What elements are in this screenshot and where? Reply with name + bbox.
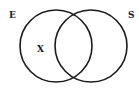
set-label-s: S (128, 11, 135, 20)
circle-e (20, 10, 92, 82)
venn-svg (0, 0, 139, 88)
circle-s (55, 10, 127, 82)
set-label-e: E (9, 11, 16, 20)
region-marker-x: X (37, 45, 44, 54)
venn-diagram: E S X (0, 0, 139, 88)
